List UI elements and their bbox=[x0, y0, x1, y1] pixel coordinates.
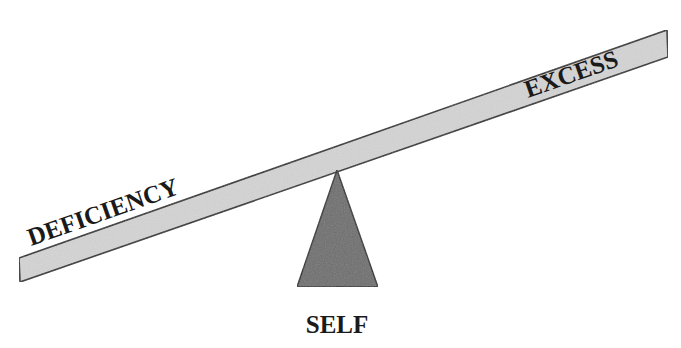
label-self: SELF bbox=[306, 311, 369, 338]
label-excess: EXCESS bbox=[521, 45, 622, 103]
fulcrum-triangle bbox=[297, 170, 378, 287]
seesaw-diagram: DEFICIENCY EXCESS SELF bbox=[0, 0, 681, 348]
